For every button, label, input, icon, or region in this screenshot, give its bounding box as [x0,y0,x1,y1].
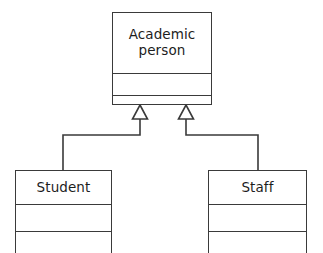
class-name-text: Staff [241,180,273,196]
class-name-text: Student [37,180,91,196]
class-name-text: Academic person [129,27,196,59]
class-attributes-student [16,204,111,231]
generalization-line-student [63,118,140,170]
generalization-staff-to-academic-person[interactable] [179,105,259,170]
generalization-line-staff [186,118,258,170]
class-attributes-staff [209,204,306,231]
class-box-academic-person[interactable]: Academic person [112,12,212,105]
class-name-line-2: person [139,42,186,58]
hollow-triangle-arrowhead-icon-staff [179,105,194,119]
class-operations-academic-person [113,95,211,104]
generalization-student-to-academic-person[interactable] [63,105,148,170]
class-name-academic-person: Academic person [113,13,211,73]
class-attributes-academic-person [113,73,211,95]
class-name-student: Student [16,171,111,204]
class-box-staff[interactable]: Staff [208,170,307,253]
uml-class-diagram: Academic person Student Staff [0,0,323,253]
hollow-triangle-arrowhead-icon-student [133,105,148,119]
class-name-staff: Staff [209,171,306,204]
class-name-line-1: Academic [129,26,196,42]
class-box-student[interactable]: Student [15,170,112,253]
class-operations-student [16,231,111,253]
class-operations-staff [209,231,306,253]
